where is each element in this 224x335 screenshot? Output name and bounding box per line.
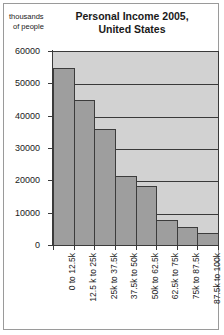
x-tick-mark [74,246,75,250]
y-tick-label: 50000 [0,78,40,88]
x-tick-mark [177,246,178,250]
bar [197,233,219,246]
x-tick-mark [94,246,95,250]
x-tick-mark [197,246,198,250]
x-tick-mark [218,246,219,250]
chart-title-line-1: Personal Income 2005, [48,10,216,23]
x-tick-label: 50k to 62.5k [150,253,160,299]
bar [74,100,96,246]
bar [177,227,199,246]
x-tick-label: 12.5 k to 25k [88,253,98,302]
plot-area [53,51,219,246]
y-tick-mark [48,180,53,181]
x-tick-label: 25k to 37.5k [109,253,119,299]
y-tick-mark [48,83,53,84]
chart-title-line-2: United States [48,23,216,36]
y-tick-label: 40000 [0,111,40,121]
bar [136,186,158,246]
y-tick-mark [48,116,53,117]
chart-title: Personal Income 2005, United States [48,10,216,35]
y-tick-label: 30000 [0,143,40,153]
y-tick-label: 60000 [0,46,40,56]
x-tick-mark [115,246,116,250]
chart-frame: thousands of people Personal Income 2005… [3,3,219,330]
y-tick-mark [48,148,53,149]
bar [53,68,75,246]
y-tick-label: 10000 [0,208,40,218]
bar [115,176,137,246]
y-tick-label: 20000 [0,175,40,185]
x-tick-mark [156,246,157,250]
y-tick-mark [48,51,53,52]
x-tick-label: 87.5k to 100k [212,253,222,304]
x-tick-label: 62.5k to 75k [170,253,180,299]
x-tick-mark [136,246,137,250]
x-tick-mark [53,246,54,250]
x-tick-label: 75k to 87.5k [191,253,201,299]
x-tick-label: 0 to 12.5k [67,253,77,290]
x-tick-label: 37.5k to 50k [129,253,139,299]
bar [156,220,178,247]
bar [94,129,116,246]
y-tick-mark [48,213,53,214]
gridline [53,84,218,85]
y-tick-label: 0 [0,240,40,250]
